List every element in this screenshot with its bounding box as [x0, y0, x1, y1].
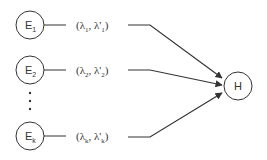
diagram-canvas: E1 (λ1, λ'1) E2 (λ2, λ'2) Ek (λk, λ'k) H [0, 0, 267, 160]
edge-label-e2: (λ2, λ'2) [76, 64, 109, 79]
edge-ek-to-h [128, 93, 222, 137]
svg-text:E2: E2 [25, 64, 36, 78]
edge-label-e1: (λ1, λ'1) [76, 19, 109, 34]
ellipsis-dots [29, 92, 31, 110]
svg-text:Ek: Ek [25, 130, 36, 144]
node-e1: E1 [16, 11, 44, 39]
node-ek: Ek [16, 122, 44, 150]
svg-text:E1: E1 [25, 19, 36, 33]
node-e2: E2 [16, 56, 44, 84]
edge-label-ek: (λk, λ'k) [76, 130, 109, 145]
svg-text:H: H [234, 80, 242, 92]
edge-e2-to-h [128, 70, 222, 85]
node-h: H [224, 72, 252, 100]
